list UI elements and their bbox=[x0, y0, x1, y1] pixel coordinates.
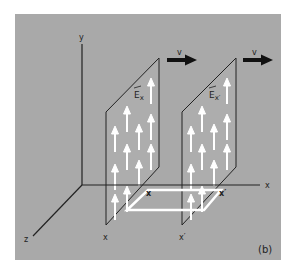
plate-x-position-label: x bbox=[103, 233, 108, 242]
rectangle-corner-label-x: x bbox=[146, 189, 152, 198]
x-axis-label: x bbox=[265, 181, 270, 190]
velocity-label: v bbox=[252, 48, 257, 57]
panel-label: (b) bbox=[258, 244, 272, 255]
plate-x-prime-position-label: x′ bbox=[179, 233, 186, 242]
velocity-label: v bbox=[177, 48, 182, 57]
y-axis-label: y bbox=[79, 33, 84, 42]
z-axis-label: z bbox=[24, 235, 28, 244]
velocity-arrow-icon bbox=[243, 58, 263, 62]
velocity-arrow-icon bbox=[167, 58, 187, 62]
rectangle-corner-label-x-prime: x′ bbox=[219, 189, 226, 198]
field-plates-diagram: Ex Ex′ y x z x x′ bbox=[0, 0, 297, 273]
